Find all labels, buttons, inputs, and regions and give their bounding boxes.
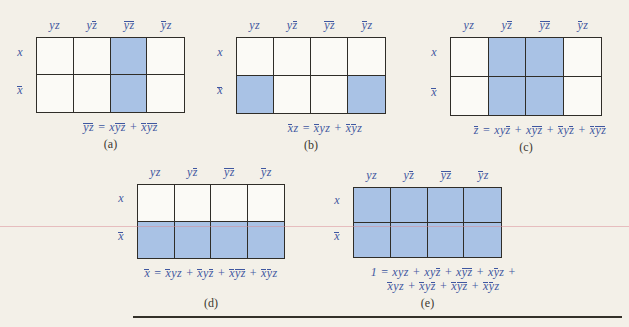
plain-term: z	[272, 266, 277, 280]
kmap-cell-shaded	[464, 223, 501, 258]
plain-term: +	[468, 279, 483, 293]
overlined-term: yz	[115, 120, 126, 134]
column-header-label: yz	[73, 18, 110, 33]
overlined-term: y	[478, 168, 484, 183]
plain-term: +	[511, 123, 526, 137]
row-labels: xx	[9, 33, 31, 109]
overlined-term: z	[293, 18, 298, 33]
overlined-term: y	[578, 18, 584, 33]
plain-term: z	[368, 18, 373, 32]
overlined-term: y	[494, 265, 500, 279]
overlined-term: yz	[532, 123, 543, 137]
kmap-cell	[211, 185, 248, 222]
plain-term: x	[17, 45, 22, 60]
kmap-cell-shaded	[111, 38, 148, 75]
kmap-cell	[451, 38, 489, 77]
overlined-term: x	[197, 266, 203, 280]
column-header-label: yz	[488, 18, 526, 33]
row-labels: xx	[209, 33, 231, 110]
overlined-term: x	[17, 83, 22, 98]
kmap-cell-shaded	[175, 222, 212, 259]
kmap-cell	[138, 185, 175, 222]
plain-term: z	[583, 18, 588, 32]
plain-term: z	[494, 279, 499, 293]
column-header-label: yz	[211, 165, 248, 180]
plain-term: yz	[49, 18, 60, 32]
expression-line: 1 = xyz + xyz + xyz + xyz +	[369, 265, 518, 279]
overlined-term: y	[161, 18, 167, 33]
plain-term: +	[504, 265, 516, 279]
column-header-label: yz	[111, 18, 148, 33]
kmap-cell-shaded	[211, 222, 248, 259]
plain-term: z	[484, 168, 489, 182]
expression-line: x = xyz + xyz + xyz + xyz	[137, 266, 285, 280]
column-header-label: yz	[353, 168, 390, 183]
column-header-label: yz	[428, 168, 465, 183]
plain-term: yz	[366, 168, 377, 182]
kmap-cell-shaded	[354, 188, 391, 223]
plain-term: yz	[150, 165, 161, 179]
kmap-cell-shaded	[526, 77, 564, 116]
overlined-term: y	[362, 18, 368, 33]
boolean-expression: x = xyz + xyz + xyz + xyz	[137, 266, 285, 280]
overlined-term: x	[144, 266, 150, 280]
overlined-term: yz	[224, 165, 235, 180]
karnaugh-map-a: yzyzyzyz xx yz = xyz + xyz (a)	[36, 10, 185, 152]
overlined-term: z	[209, 266, 214, 280]
karnaugh-map-e: yzyzyzyz xx 1 = xyz + xyz + xyz + xyz +x…	[353, 160, 502, 311]
kmap-grid	[137, 184, 285, 259]
subfigure-label: (e)	[353, 296, 502, 311]
kmap-grid	[353, 187, 502, 258]
overlined-term: z	[431, 279, 436, 293]
kmap-cell-shaded	[464, 188, 501, 223]
plain-term: +	[409, 265, 424, 279]
overlined-term: yz	[235, 266, 246, 280]
kmap-cell	[274, 76, 311, 114]
kmap-cell-shaded	[348, 76, 385, 114]
kmap-grid	[236, 37, 386, 114]
kmap-cell	[237, 38, 274, 76]
plain-term: x	[217, 45, 222, 60]
plain-term: z	[357, 121, 362, 135]
plain-term: +	[126, 120, 141, 134]
row-header-label: x	[423, 73, 445, 113]
plain-term: yz	[320, 121, 331, 135]
kmap-cell	[147, 38, 184, 75]
subfigure-label: (b)	[236, 138, 386, 153]
kmap-cell	[564, 38, 602, 77]
plain-term: x	[118, 191, 123, 206]
plain-term: =	[479, 123, 494, 137]
kmap-cell-shaded	[248, 222, 285, 259]
kmap-cell-shaded	[354, 223, 391, 258]
row-labels: xx	[110, 180, 132, 255]
plain-term: yz	[171, 266, 182, 280]
overlined-term: z	[507, 18, 512, 33]
overlined-term: yz	[462, 265, 473, 279]
kmap-cell	[74, 75, 111, 112]
subfigure-label: (a)	[36, 137, 185, 152]
plain-term: +	[543, 123, 558, 137]
overlined-term: x	[558, 123, 564, 137]
scan-artifact-line	[0, 226, 629, 227]
karnaugh-map-c: yzyzyzyz xx z = xyz + xyz + xyz + xyz (c…	[450, 10, 602, 155]
row-labels: xx	[423, 33, 445, 112]
row-header-label: x	[209, 72, 231, 111]
kmap-cell-shaded	[237, 76, 274, 114]
plain-term: +	[214, 266, 229, 280]
kmap-cell-shaded	[138, 222, 175, 259]
overlined-term: z	[506, 123, 511, 137]
row-header-label: x	[209, 33, 231, 72]
expression-line: z = xyz + xyz + xyz + xyz	[464, 123, 616, 137]
kmap-cell-shaded	[111, 75, 148, 112]
expression-line: yz = xyz + xyz	[46, 120, 195, 134]
row-header-label: x	[326, 183, 348, 219]
kmap-cell	[37, 75, 74, 112]
overlined-term: x	[334, 229, 339, 244]
overlined-term: yz	[441, 168, 452, 183]
overlined-term: x	[314, 121, 320, 135]
plain-term: x	[334, 193, 339, 208]
overlined-term: yz	[457, 279, 468, 293]
column-header-label: yz	[36, 18, 73, 33]
column-header-label: yz	[148, 18, 185, 33]
column-headers: yzyzyzyz	[137, 157, 285, 184]
